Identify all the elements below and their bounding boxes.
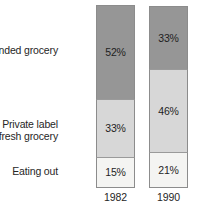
- bar-segment-1990-eating-out: 21%: [149, 152, 188, 188]
- segment-value-1990-private-label: 46%: [158, 106, 178, 117]
- category-label-branded-grocery: Branded grocery: [0, 44, 58, 56]
- bar-segment-1990-branded-grocery: 33%: [149, 6, 188, 69]
- stacked-bar-chart: Branded grocery Private label and fresh …: [0, 0, 197, 209]
- segment-value-1982-branded-grocery: 52%: [105, 47, 125, 58]
- segment-value-1982-private-label: 33%: [105, 123, 125, 134]
- axis-label-1990: 1990: [149, 191, 188, 204]
- bar-segment-1982-eating-out: 15%: [96, 157, 135, 188]
- category-label-eating-out: Eating out: [0, 165, 58, 177]
- bar-1990: 33% 46% 21%: [149, 6, 188, 188]
- bar-segment-1982-private-label: 33%: [96, 99, 135, 157]
- segment-value-1990-branded-grocery: 33%: [158, 33, 178, 44]
- bar-segment-1982-branded-grocery: 52%: [96, 5, 135, 99]
- category-label-private-label-and-fresh-grocery: Private label and fresh grocery: [0, 118, 58, 142]
- segment-value-1990-eating-out: 21%: [158, 165, 178, 176]
- segment-value-1982-eating-out: 15%: [105, 167, 125, 178]
- axis-label-1982: 1982: [96, 191, 135, 204]
- bar-1982: 52% 33% 15%: [96, 5, 135, 188]
- bar-segment-1990-private-label: 46%: [149, 69, 188, 152]
